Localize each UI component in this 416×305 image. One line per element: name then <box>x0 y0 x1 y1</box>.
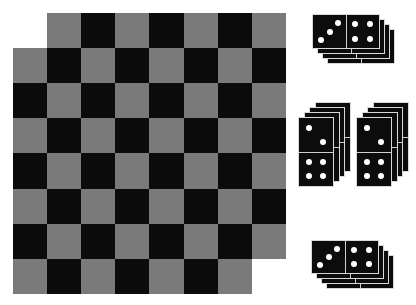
board-square-r5c3[interactable] <box>115 189 149 224</box>
board-square-r7c6[interactable] <box>218 259 252 294</box>
pip-icon <box>326 254 332 260</box>
board-square-r1c7[interactable] <box>252 48 286 83</box>
board-square-r0c4[interactable] <box>149 13 184 48</box>
pip-icon <box>318 37 324 43</box>
board-square-r4c6[interactable] <box>218 153 252 189</box>
board-square-r4c7[interactable] <box>252 153 286 189</box>
pip-icon <box>366 247 372 253</box>
board-square-r6c3[interactable] <box>115 224 149 259</box>
domino-tile-front[interactable] <box>312 14 380 49</box>
board-square-r6c2[interactable] <box>81 224 115 259</box>
pip-icon <box>367 36 373 42</box>
board-square-r5c0[interactable] <box>13 189 47 224</box>
domino-divider <box>357 152 391 153</box>
pip-icon <box>320 159 326 165</box>
board-square-r6c5[interactable] <box>184 224 218 259</box>
pip-icon <box>335 20 341 26</box>
board-square-r1c6[interactable] <box>218 48 252 83</box>
pip-icon <box>378 139 384 145</box>
domino-half-left <box>313 15 346 48</box>
pip-icon <box>352 21 358 27</box>
pip-icon <box>378 173 384 179</box>
board-square-r4c0[interactable] <box>13 153 47 189</box>
board-square-r7c1[interactable] <box>47 259 81 294</box>
board-square-r6c4[interactable] <box>149 224 184 259</box>
pip-icon <box>306 125 312 131</box>
board-square-r7c5[interactable] <box>184 259 218 294</box>
board-square-r0c3[interactable] <box>115 13 149 48</box>
board-square-r4c1[interactable] <box>47 153 81 189</box>
board-square-r1c5[interactable] <box>184 48 218 83</box>
board-square-r7c0[interactable] <box>13 259 47 294</box>
board-square-r3c0[interactable] <box>13 118 47 153</box>
pip-icon <box>364 159 370 165</box>
board-square-r5c4[interactable] <box>149 189 184 224</box>
pip-icon <box>320 173 326 179</box>
board-square-r0c1[interactable] <box>47 13 81 48</box>
board-square-r3c4[interactable] <box>149 118 184 153</box>
board-square-r1c3[interactable] <box>115 48 149 83</box>
board-square-r5c1[interactable] <box>47 189 81 224</box>
board-square-r1c0[interactable] <box>13 48 47 83</box>
domino-half-right <box>345 241 378 273</box>
domino-divider <box>299 152 333 153</box>
board-square-r5c2[interactable] <box>81 189 115 224</box>
board-square-r4c4[interactable] <box>149 153 184 189</box>
board-square-r6c1[interactable] <box>47 224 81 259</box>
pip-icon <box>306 173 312 179</box>
board-square-r2c6[interactable] <box>218 83 252 118</box>
board-square-r2c1[interactable] <box>47 83 81 118</box>
board-square-r0c2[interactable] <box>81 13 115 48</box>
board-square-r2c4[interactable] <box>149 83 184 118</box>
board-square-r2c5[interactable] <box>184 83 218 118</box>
board-square-r2c7[interactable] <box>252 83 286 118</box>
board-square-r4c3[interactable] <box>115 153 149 189</box>
board-square-r3c1[interactable] <box>47 118 81 153</box>
board-square-r2c2[interactable] <box>81 83 115 118</box>
domino-half-right <box>346 15 379 48</box>
domino-divider <box>345 241 346 273</box>
pip-icon <box>320 139 326 145</box>
domino-half-bottom <box>299 152 333 186</box>
board-square-r6c7[interactable] <box>252 224 286 259</box>
domino-tile-front[interactable] <box>311 240 379 274</box>
pip-icon <box>327 29 333 35</box>
board-square-r0c7[interactable] <box>252 13 286 48</box>
pip-icon <box>378 159 384 165</box>
board-square-r0c5[interactable] <box>184 13 218 48</box>
board-square-r0c6[interactable] <box>218 13 252 48</box>
board-square-r1c2[interactable] <box>81 48 115 83</box>
board-square-r5c6[interactable] <box>218 189 252 224</box>
board-square-r3c7[interactable] <box>252 118 286 153</box>
pip-icon <box>352 36 358 42</box>
domino-divider <box>346 15 347 48</box>
board-square-r4c5[interactable] <box>184 153 218 189</box>
board-square-r3c6[interactable] <box>218 118 252 153</box>
pip-icon <box>317 262 323 268</box>
board-square-r5c5[interactable] <box>184 189 218 224</box>
board-square-r3c2[interactable] <box>81 118 115 153</box>
board-square-r3c3[interactable] <box>115 118 149 153</box>
pip-icon <box>351 247 357 253</box>
domino-half-left <box>312 241 345 273</box>
board-square-r7c2[interactable] <box>81 259 115 294</box>
pip-icon <box>364 125 370 131</box>
board-square-r1c1[interactable] <box>47 48 81 83</box>
board-square-r7c4[interactable] <box>149 259 184 294</box>
board-square-r3c5[interactable] <box>184 118 218 153</box>
pip-icon <box>366 261 372 267</box>
board-square-r6c0[interactable] <box>13 224 47 259</box>
pip-icon <box>351 261 357 267</box>
domino-tile-front[interactable] <box>298 117 334 187</box>
domino-tile-front[interactable] <box>356 117 392 187</box>
board-square-r1c4[interactable] <box>149 48 184 83</box>
board-square-r2c3[interactable] <box>115 83 149 118</box>
board-square-r7c3[interactable] <box>115 259 149 294</box>
board-square-r2c0[interactable] <box>13 83 47 118</box>
board-square-r5c7[interactable] <box>252 189 286 224</box>
domino-half-bottom <box>357 152 391 186</box>
board-square-r6c6[interactable] <box>218 224 252 259</box>
pip-icon <box>367 21 373 27</box>
pip-icon <box>334 246 340 252</box>
board-square-r4c2[interactable] <box>81 153 115 189</box>
